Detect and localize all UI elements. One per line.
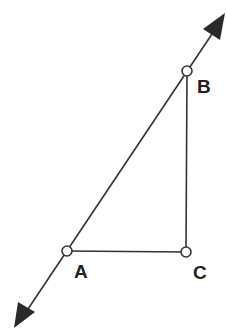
label-b: B <box>197 76 211 97</box>
segment-cb <box>186 71 187 252</box>
point-c <box>181 247 191 257</box>
arrowhead-top-icon <box>203 13 225 40</box>
segment-ac <box>67 251 186 252</box>
point-a <box>62 246 72 256</box>
label-c: C <box>193 262 207 283</box>
diagram-canvas: A B C <box>0 0 227 329</box>
label-a: A <box>74 261 88 282</box>
point-b <box>182 66 192 76</box>
arrowhead-bottom-icon <box>14 302 35 328</box>
triangle-diagram: A B C <box>0 0 227 329</box>
